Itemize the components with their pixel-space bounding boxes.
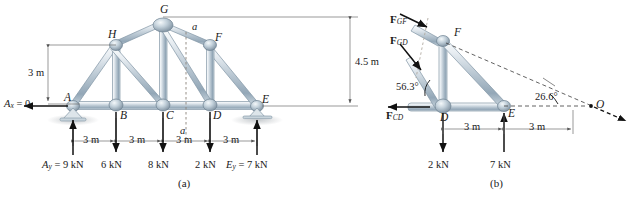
section-label-top: a	[192, 22, 197, 33]
joint-F-b	[437, 36, 450, 47]
node-label-A: A	[64, 92, 71, 104]
node-label-E-b: E	[508, 108, 515, 120]
load-label-D: 2 kN	[195, 160, 216, 171]
figure-a: A B C D E F G H a a 3 m 4.5 m 3 m 3 m 3 …	[0, 0, 400, 198]
node-label-F: F	[215, 32, 222, 44]
dashed-line-F-to-O	[446, 43, 592, 106]
dimension-label-bay3: 3 m	[176, 135, 192, 146]
joint-G	[153, 18, 173, 32]
moment-center-construction	[446, 43, 592, 106]
load-arrows-a	[24, 106, 257, 155]
force-label-GD: FGD	[390, 35, 408, 47]
angle-leader-26	[543, 78, 555, 86]
load-label-B: 6 kN	[101, 160, 122, 171]
figure-a-caption: (a)	[178, 178, 190, 189]
dimension-label-DE-b: 3 m	[464, 122, 480, 133]
load-label-D-b: 2 kN	[428, 160, 449, 171]
reaction-label-Ay: Ay = 9 kN	[42, 160, 84, 171]
pin-support-A	[60, 108, 86, 121]
node-label-B: B	[120, 110, 127, 122]
member-FE-b	[440, 38, 505, 107]
truss-members-a	[71, 21, 260, 110]
force-label-CD: FCD	[386, 110, 403, 122]
figure-pair: A B C D E F G H a a 3 m 4.5 m 3 m 3 m 3 …	[0, 0, 641, 198]
load-label-E-b: 7 kN	[490, 160, 511, 171]
dimension-label-3m-left: 3 m	[28, 68, 44, 79]
node-label-E: E	[262, 94, 269, 106]
node-label-F-b: F	[454, 27, 461, 39]
dimension-label-bay2: 3 m	[129, 135, 145, 146]
point-O-dot	[589, 104, 593, 108]
angle-label-26: 26.6°	[535, 92, 558, 103]
dimension-label-bay4: 3 m	[223, 135, 239, 146]
node-label-G: G	[160, 4, 168, 16]
angle-label-56: 56.3°	[396, 82, 419, 93]
dimension-label-EO-b: 3 m	[529, 122, 545, 133]
load-label-C: 8 kN	[148, 160, 169, 171]
node-label-H: H	[108, 29, 116, 41]
reaction-label-Ax: Ax = 0	[4, 99, 30, 110]
node-label-D: D	[213, 110, 221, 122]
node-label-C: C	[166, 110, 174, 122]
force-label-GF: FGF	[390, 14, 407, 26]
reaction-label-Ey: Ey = 7 kN	[226, 160, 268, 171]
member-AH	[71, 42, 119, 107]
dimension-label-45m: 4.5 m	[355, 57, 379, 68]
member-GD	[161, 26, 212, 106]
dimension-label-bay1: 3 m	[83, 135, 99, 146]
node-label-O-b: O	[596, 99, 604, 111]
figure-b: D E F O FGF FGD FCD 56.3° 26.6° 2 kN 7 k…	[380, 0, 641, 198]
node-label-D-b: D	[440, 112, 448, 124]
figure-b-caption: (b)	[490, 178, 503, 189]
